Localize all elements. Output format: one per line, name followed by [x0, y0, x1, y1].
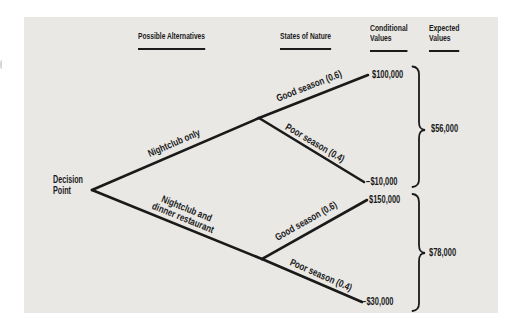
- header-states-of-nature: States of Nature: [280, 31, 331, 50]
- decision-point-line2: Point: [53, 186, 83, 197]
- expected-value-78000: $78,000: [429, 247, 456, 259]
- branch-nightclub-only-line: [92, 118, 259, 190]
- header-conditional-values-line2: Values: [370, 33, 408, 43]
- decision-point-label: Decision Point: [53, 175, 83, 196]
- expected-value-56000: $56,000: [431, 123, 458, 135]
- expected-value-brace-top: [413, 67, 426, 188]
- conditional-value-150000: $150,000: [369, 194, 400, 206]
- expected-value-brace-bottom: [413, 194, 426, 311]
- conditional-value-minus-10000: −$10,000: [366, 176, 398, 188]
- decision-tree-figure: Possible Alternatives States of Nature C…: [0, 0, 516, 335]
- header-possible-alternatives: Possible Alternatives: [138, 31, 205, 50]
- conditional-value-minus-30000: −$30,000: [362, 296, 394, 308]
- conditional-value-100000: $100,000: [372, 69, 403, 81]
- header-expected-values: Expected Values: [429, 23, 459, 52]
- header-expected-values-line2: Values: [429, 33, 459, 43]
- header-conditional-values: Conditional Values: [370, 23, 408, 52]
- poor-season-line-top: [259, 118, 364, 182]
- decision-point-line1: Decision: [53, 175, 83, 186]
